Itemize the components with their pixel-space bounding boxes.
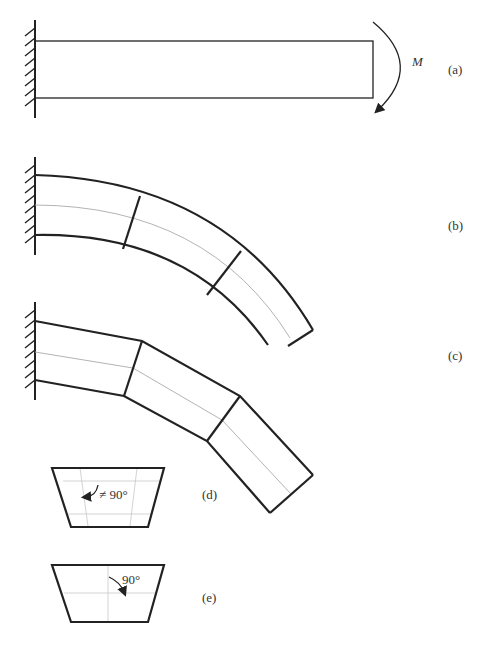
panel-label-d: (d) (202, 487, 217, 502)
panel-label-b: (b) (448, 218, 463, 233)
panel-label-a: (a) (448, 62, 462, 77)
section-1 (124, 341, 142, 396)
plane-section-1 (123, 196, 140, 249)
fixed-wall-support-icon (25, 20, 35, 118)
fixed-wall-support-icon (25, 302, 35, 400)
panel-d: ≠ 90° (d) (52, 468, 217, 527)
arc-beam-top-edge (35, 175, 313, 330)
neutral-axis (35, 205, 290, 338)
panel-e: 90° (e) (52, 565, 216, 622)
panel-label-e: (e) (202, 590, 216, 605)
beam-bending-diagram: M (a) (b) (c) ≠ 90° (d) (0, 0, 482, 646)
straight-beam (35, 41, 373, 98)
panel-label-c: (c) (448, 348, 462, 363)
moment-arrow-icon (373, 22, 400, 110)
panel-a: M (a) (25, 20, 462, 118)
kinked-beam-bottom-edge (35, 380, 270, 513)
end-section (270, 475, 313, 513)
end-section (288, 330, 313, 346)
angle-right-label: 90° (122, 572, 140, 587)
kinked-beam-top-edge (35, 321, 313, 475)
moment-label: M (411, 54, 424, 69)
angle-not-right-label: ≠ 90° (99, 487, 128, 502)
panel-b: (b) (25, 157, 463, 346)
fixed-wall-support-icon (25, 157, 35, 255)
angle-arrow-icon (86, 485, 98, 497)
